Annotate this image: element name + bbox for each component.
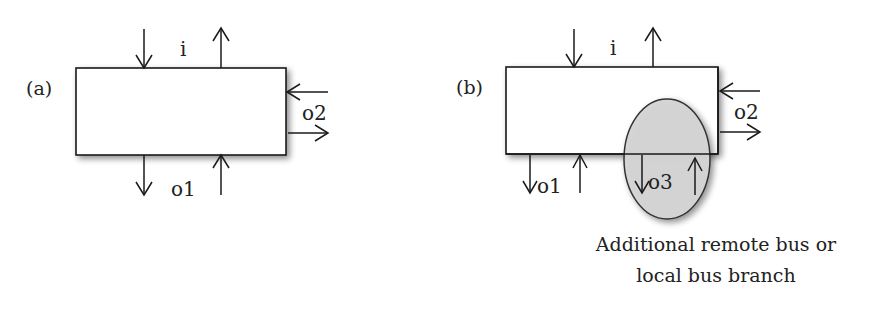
panel-a-o2-right-arrow-icon: [288, 125, 328, 141]
panel-b-input-down-arrow-icon: [566, 29, 582, 67]
bus-branch-ellipse: [624, 99, 710, 219]
caption-line-1: Additional remote bus or: [595, 233, 837, 255]
panel-b-right-label: o2: [734, 100, 759, 124]
panel-a-o1-up-arrow-icon: [213, 155, 229, 195]
panel-a-input-up-arrow-icon: [213, 28, 229, 68]
panel-a: (a) i o2: [26, 28, 328, 201]
panel-b-o1-up-arrow-icon: [573, 155, 587, 193]
ellipse-label: o3: [648, 170, 673, 194]
panel-a-input-down-arrow-icon: [136, 29, 152, 68]
caption-line-2: local bus branch: [636, 264, 795, 286]
panel-b-bottom-label: o1: [537, 174, 562, 198]
panel-a-box: [76, 68, 286, 155]
panel-a-label: (a): [26, 77, 52, 99]
panel-b-o2-right-arrow-icon: [720, 124, 760, 140]
panel-a-right-label: o2: [302, 101, 327, 125]
panel-b: (b) i: [456, 28, 837, 286]
panel-a-o2-left-arrow-icon: [287, 84, 328, 100]
panel-a-top-label: i: [180, 37, 186, 61]
panel-b-o1-down-arrow-icon: [523, 155, 537, 193]
diagram-svg: (a) i o2: [0, 0, 877, 311]
panel-b-label: (b): [456, 76, 483, 98]
panel-a-bottom-label: o1: [171, 177, 196, 201]
panel-a-o1-down-arrow-icon: [136, 155, 152, 195]
panel-b-top-label: i: [610, 36, 616, 60]
panel-b-o2-left-arrow-icon: [720, 83, 760, 99]
panel-b-input-up-arrow-icon: [645, 28, 661, 67]
diagram-canvas: (a) i o2: [0, 0, 877, 311]
